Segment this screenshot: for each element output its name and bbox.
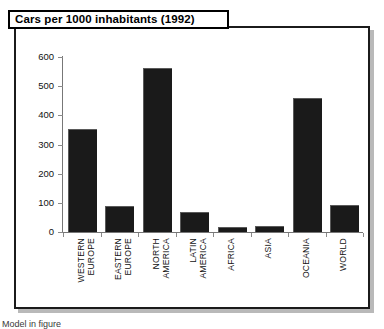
y-axis-tick-label: 0 xyxy=(14,227,54,237)
x-axis-tick xyxy=(363,233,364,237)
bottom-caption: Model in figure xyxy=(2,320,61,329)
bar xyxy=(143,68,172,232)
x-axis-category-label: WORLD xyxy=(339,238,353,308)
x-axis-category-label: ASIA xyxy=(264,238,278,308)
x-axis-category-label: AFRICA xyxy=(227,238,241,308)
y-axis-tick xyxy=(58,115,63,116)
plot-area xyxy=(63,57,363,232)
x-axis-tick xyxy=(326,233,327,237)
chart-title: Cars per 1000 inhabitants (1992) xyxy=(10,14,195,26)
x-axis-category-label: WESTERNEUROPE xyxy=(77,238,91,308)
bar xyxy=(330,205,359,232)
x-axis-category-label: EASTERNEUROPE xyxy=(114,238,128,308)
x-axis-tick xyxy=(176,233,177,237)
y-axis-tick-label: 200 xyxy=(14,169,54,179)
x-axis-category-label: OCEANIA xyxy=(302,238,316,308)
bar xyxy=(105,206,134,232)
bar xyxy=(293,98,322,232)
y-axis-tick xyxy=(58,203,63,204)
chart-figure: Cars per 1000 inhabitants (1992) 0100200… xyxy=(0,0,384,329)
bar xyxy=(180,212,209,232)
y-axis-tick-label: 300 xyxy=(14,140,54,150)
x-axis-tick xyxy=(138,233,139,237)
x-axis-tick xyxy=(63,233,64,237)
x-axis-tick xyxy=(251,233,252,237)
x-axis-category-label: NORTHAMERICA xyxy=(152,238,166,308)
y-axis-tick xyxy=(58,57,63,58)
x-axis-tick xyxy=(101,233,102,237)
chart-title-box: Cars per 1000 inhabitants (1992) xyxy=(8,10,229,29)
x-axis-category-label: LATINAMERICA xyxy=(189,238,203,308)
y-axis-tick-label: 100 xyxy=(14,198,54,208)
y-axis-tick xyxy=(58,174,63,175)
x-axis-tick xyxy=(288,233,289,237)
y-axis-tick xyxy=(58,145,63,146)
y-axis-tick xyxy=(58,86,63,87)
y-axis-tick-label: 400 xyxy=(14,110,54,120)
y-axis-tick-label: 600 xyxy=(14,52,54,62)
x-axis-tick xyxy=(213,233,214,237)
y-axis-tick-label: 500 xyxy=(14,81,54,91)
bar xyxy=(68,129,97,232)
